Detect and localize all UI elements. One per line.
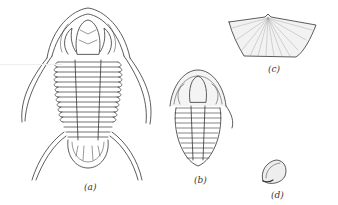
- panel-label-b: (b): [194, 176, 207, 185]
- panel-label-c: (c): [268, 65, 280, 74]
- panel-label-d: (d): [271, 191, 284, 200]
- fossil-figure: (a) (b) (c) (d): [0, 0, 338, 205]
- shell-d-drawing: [262, 160, 286, 183]
- trilobite-a-drawing: [22, 8, 151, 180]
- panel-label-a: (a): [84, 183, 96, 192]
- divider-line: [0, 64, 62, 65]
- illustration-canvas: [0, 0, 338, 205]
- brachiopod-c-drawing: [229, 14, 316, 57]
- trilobite-b-drawing: [170, 70, 233, 166]
